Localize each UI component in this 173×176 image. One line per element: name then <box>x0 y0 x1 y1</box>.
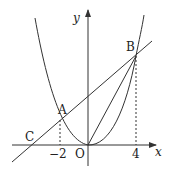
point-c-label: C <box>25 131 34 143</box>
tick-neg2-label: −2 <box>49 148 67 160</box>
x-axis-label: x <box>155 146 162 158</box>
point-b-label: B <box>126 41 135 53</box>
point-a-label: A <box>58 104 67 116</box>
tick-4-label: 4 <box>132 148 140 160</box>
segment-ob <box>88 56 136 145</box>
parabola-curve <box>35 15 144 145</box>
origin-label: O <box>75 148 85 160</box>
diagram: y x O A B C −2 4 <box>0 0 173 176</box>
diagram-canvas <box>0 0 173 176</box>
y-axis-label: y <box>73 12 80 24</box>
